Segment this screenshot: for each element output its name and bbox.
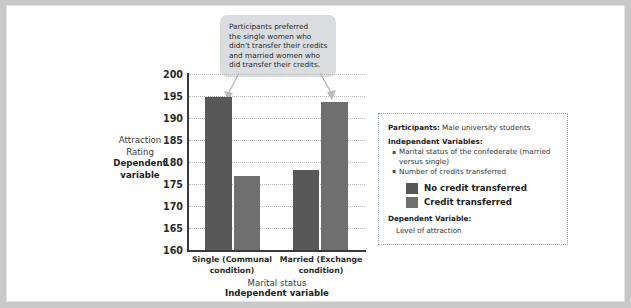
dependent-variable-block: Dependent Variable: Level of attraction xyxy=(388,214,559,235)
participants-label: Participants: xyxy=(388,123,440,132)
ytick-160: 160 xyxy=(153,245,183,256)
legend: No credit transferred Credit transferred xyxy=(388,183,559,208)
iv-item-1: Number of credits transferred xyxy=(399,167,559,176)
participants-row: Participants: Male university students xyxy=(388,123,559,133)
legend-item-credit: Credit transferred xyxy=(406,197,559,208)
y-axis-title-line3: Dependent xyxy=(102,158,178,170)
callout-bubble: Participants preferred the single women … xyxy=(220,15,336,77)
dv-label: Dependent Variable: xyxy=(388,214,559,224)
ytick-170: 170 xyxy=(153,201,183,212)
legend-label-no-credit: No credit transferred xyxy=(424,184,527,194)
legend-label-credit: Credit transferred xyxy=(424,198,512,208)
ytick-165: 165 xyxy=(153,223,183,234)
y-axis-title-line2: Rating xyxy=(102,147,178,159)
bar-single-credit xyxy=(234,176,260,250)
legend-item-no-credit: No credit transferred xyxy=(406,183,559,194)
ytick-200: 200 xyxy=(153,69,183,80)
callout-line-2: the single women who xyxy=(229,32,328,42)
callout-line-3: didn't transfer their credits xyxy=(229,41,328,51)
xcat-married: Married (Exchange condition) xyxy=(277,255,365,276)
x-axis-line xyxy=(187,250,366,252)
xcat-married-line2: condition) xyxy=(277,266,365,277)
callout-line-1: Participants preferred xyxy=(229,22,328,32)
xcat-single-line1: Single (Communal xyxy=(188,255,276,266)
callout-line-4: and married women who xyxy=(229,51,328,61)
ytick-190: 190 xyxy=(153,113,183,124)
iv-item-0: Marital status of the confederate (marri… xyxy=(399,147,559,166)
y-axis-title: Attraction Rating Dependent variable xyxy=(102,135,178,181)
participants-value: Male university students xyxy=(442,123,530,132)
y-axis-title-line4: variable xyxy=(102,170,178,182)
iv-list: Marital status of the confederate (marri… xyxy=(388,147,559,176)
bar-married-credit xyxy=(321,102,348,250)
xcat-single-line2: condition) xyxy=(188,266,276,277)
bar-married-no-credit xyxy=(293,170,319,250)
y-axis-title-line1: Attraction xyxy=(102,135,178,147)
study-info-box: Participants: Male university students I… xyxy=(378,113,568,245)
callout-line-5: did transfer their credits. xyxy=(229,60,328,70)
dv-value: Level of attraction xyxy=(396,226,559,236)
legend-swatch-no-credit-icon xyxy=(406,183,418,194)
x-axis-title-line2: Independent variable xyxy=(188,288,366,298)
xcat-single: Single (Communal condition) xyxy=(188,255,276,276)
figure-panel: Participants preferred the single women … xyxy=(6,5,625,302)
xcat-married-line1: Married (Exchange xyxy=(277,255,365,266)
x-axis-title: Marital status Independent variable xyxy=(188,278,366,298)
iv-label: Independent Variables: xyxy=(388,137,559,147)
x-axis-title-line1: Marital status xyxy=(188,278,366,288)
bar-single-no-credit xyxy=(205,97,232,250)
ytick-195: 195 xyxy=(153,91,183,102)
legend-swatch-credit-icon xyxy=(406,197,418,208)
bar-group xyxy=(189,74,365,250)
